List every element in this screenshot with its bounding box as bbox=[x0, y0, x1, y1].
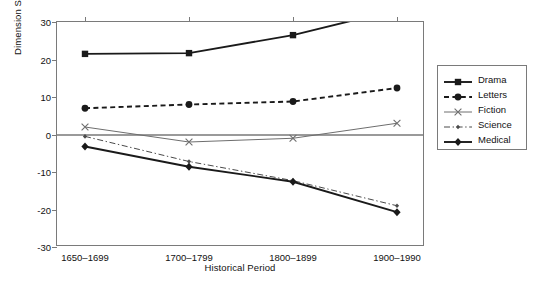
y-tick-label: 20 bbox=[40, 54, 51, 65]
legend-swatch-icon bbox=[443, 119, 473, 131]
series-science bbox=[83, 134, 399, 208]
y-tick-label: -30 bbox=[37, 242, 51, 253]
series-fiction bbox=[82, 120, 401, 146]
legend-label: Drama bbox=[478, 74, 507, 85]
y-tick-mark bbox=[52, 247, 57, 248]
y-tick-label: -20 bbox=[37, 204, 51, 215]
legend-label: Letters bbox=[478, 89, 507, 100]
legend-label: Medical bbox=[478, 134, 511, 145]
legend-item-fiction[interactable]: Fiction bbox=[438, 102, 526, 117]
y-tick-label: 10 bbox=[40, 92, 51, 103]
chart-legend: DramaLettersFictionScienceMedical bbox=[437, 65, 527, 150]
legend-item-science[interactable]: Science bbox=[438, 117, 526, 132]
series-letters bbox=[82, 85, 401, 112]
legend-swatch-icon bbox=[443, 89, 473, 101]
x-axis-title: Historical Period bbox=[56, 262, 424, 273]
legend-label: Fiction bbox=[478, 104, 506, 115]
legend-item-medical[interactable]: Medical bbox=[438, 132, 526, 147]
legend-swatch-icon bbox=[443, 104, 473, 116]
y-axis-title: Dimension Score bbox=[12, 0, 23, 78]
legend-swatch-icon bbox=[443, 74, 473, 86]
chart-figure: Dimension Score 3020100-10-20-30 1650–16… bbox=[0, 0, 536, 281]
legend-swatch-icon bbox=[443, 134, 473, 146]
y-tick-label: 30 bbox=[40, 17, 51, 28]
legend-label: Science bbox=[478, 119, 512, 130]
series-lines bbox=[57, 22, 425, 247]
legend-item-drama[interactable]: Drama bbox=[438, 72, 526, 87]
series-medical bbox=[81, 143, 400, 217]
y-tick-label: 0 bbox=[46, 129, 51, 140]
series-drama bbox=[82, 22, 400, 57]
y-tick-label: -10 bbox=[37, 167, 51, 178]
legend-item-letters[interactable]: Letters bbox=[438, 87, 526, 102]
plot-area: 3020100-10-20-30 1650–16991700–17991800–… bbox=[56, 21, 424, 246]
